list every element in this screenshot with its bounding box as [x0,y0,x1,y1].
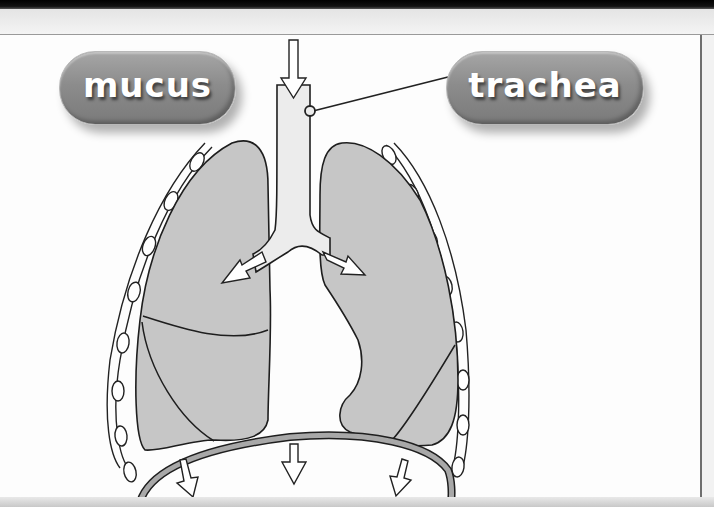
mucus-label-text: mucus [83,65,212,105]
bottom-strip [0,497,714,507]
left-lung [136,141,271,450]
mucus-label: mucus [59,51,236,125]
trachea-label-text: trachea [468,65,621,105]
right-lung [320,143,458,446]
trachea-label: trachea [446,51,644,125]
diaphragm-arrow-right-icon [390,459,411,496]
trachea-leader-line [305,77,448,116]
diaphragm-arrow-center-icon [282,444,306,484]
